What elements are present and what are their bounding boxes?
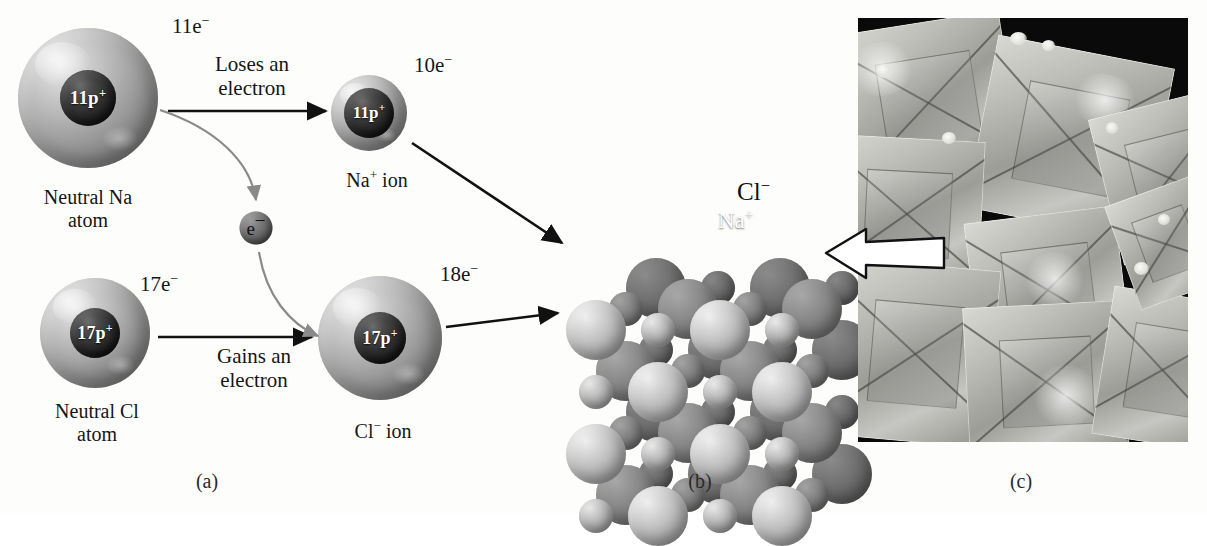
crystal-speckle	[1042, 40, 1055, 51]
sodium-ion-nucleus: 11p+	[344, 88, 394, 138]
panel-captions: (a) (b) (c)	[0, 470, 1207, 510]
arrow-electron-leaves-sodium	[160, 110, 256, 200]
chlorine-atom-electron-count: 17e−	[140, 272, 178, 296]
lattice-sodium-ion	[765, 313, 799, 347]
sodium-ion-nucleus-label: 11p	[353, 103, 379, 122]
chlorine-atom-name: Neutral Cl atom	[55, 400, 139, 446]
sodium-atom-nucleus: 11p+	[60, 70, 116, 126]
lattice-sodium-ion	[765, 437, 799, 471]
chloride-ion-electron-count: 18e−	[440, 262, 478, 286]
caption-c: (c)	[1010, 470, 1032, 493]
chloride-ion-nucleus-charge: +	[391, 326, 398, 340]
lattice-chloride-ion	[566, 300, 626, 360]
lattice-sodium-label: Na+	[718, 208, 753, 234]
lattice-chloride-ion	[690, 300, 750, 360]
arrow-electron-joins-chlorine	[259, 252, 318, 336]
chloride-ion-nucleus-label: 17p	[362, 328, 391, 348]
chlorine-atom-nucleus-label: 17p	[77, 323, 106, 343]
lattice-chloride-ion	[628, 362, 688, 422]
lattice-sodium-ion	[579, 375, 613, 409]
crystal-speckle	[1106, 122, 1118, 134]
lattice-chloride-ion	[752, 362, 812, 422]
crystal-speckle	[942, 132, 956, 144]
salt-crystal-photograph	[858, 18, 1188, 442]
sodium-ion-electron-count: 10e−	[414, 53, 452, 77]
caption-b: (b)	[688, 470, 711, 493]
chloride-ion-nucleus: 17p+	[354, 312, 406, 364]
sodium-ion-nucleus-charge: +	[379, 101, 386, 113]
crystal-speckle	[1134, 262, 1149, 275]
chlorine-atom-nucleus-charge: +	[106, 321, 113, 335]
free-electron-charge: −	[255, 210, 266, 231]
sodium-atom-nucleus-charge: +	[99, 86, 106, 100]
sodium-atom-name: Neutral Na atom	[44, 186, 132, 232]
crystal-speckle	[1010, 32, 1027, 45]
crystal-speckle	[876, 64, 892, 78]
lattice-chloride-label: Cl−	[737, 178, 770, 206]
caption-a: (a)	[196, 470, 218, 493]
sodium-atom-nucleus-label: 11p	[70, 87, 99, 108]
chloride-ion-name: Cl− ion	[355, 420, 412, 443]
sodium-ion-name: Na+ ion	[346, 169, 407, 192]
lattice-sodium-ion	[703, 375, 737, 409]
sodium-atom-electron-count: 11e−	[172, 14, 209, 38]
loses-electron-text: Loses an electron	[215, 52, 289, 101]
free-electron: e−	[240, 212, 273, 245]
crystal-speckle	[1158, 214, 1170, 225]
chlorine-atom-nucleus: 17p+	[70, 308, 120, 358]
lattice-sodium-ion	[641, 313, 675, 347]
lattice-sodium-ion	[641, 437, 675, 471]
gains-electron-text: Gains an electron	[217, 344, 291, 393]
nacl-crystal-lattice	[536, 118, 866, 448]
